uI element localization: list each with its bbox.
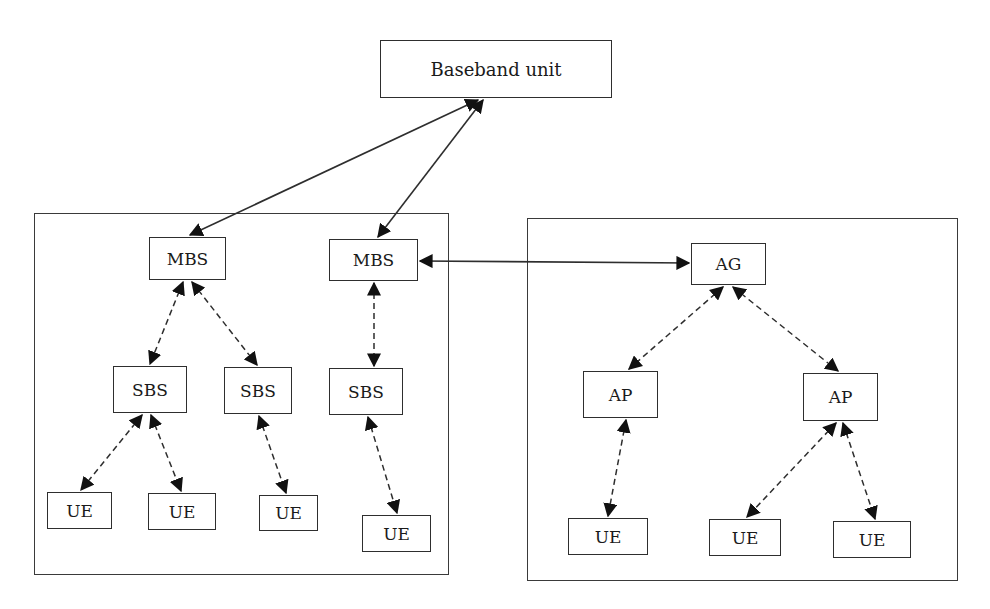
edge-mbs2-ag: [420, 261, 689, 263]
edge-bbu-mbs2: [378, 100, 483, 237]
node-label: UE: [66, 501, 93, 521]
edge-ap1-ue5: [608, 420, 626, 516]
node-label: AG: [716, 254, 742, 274]
node-label: UE: [383, 524, 410, 544]
node-label: MBS: [353, 250, 395, 270]
small-base-station-3: SBS: [329, 368, 403, 415]
small-base-station-1: SBS: [113, 366, 187, 413]
edge-mbs1-sbs2: [192, 282, 257, 365]
node-label: SBS: [132, 380, 168, 400]
node-label: UE: [169, 502, 196, 522]
edge-sbs2-ue3: [259, 416, 286, 493]
edge-sbs1-ue2: [151, 415, 181, 491]
user-equipment-5: UE: [568, 518, 648, 555]
access-point-1: AP: [583, 371, 658, 418]
node-label: MBS: [167, 249, 209, 269]
user-equipment-3: UE: [259, 495, 318, 531]
access-point-2: AP: [803, 373, 878, 421]
node-label: SBS: [240, 381, 276, 401]
macro-base-station-1: MBS: [149, 237, 226, 280]
user-equipment-2: UE: [148, 493, 216, 530]
user-equipment-6: UE: [709, 519, 781, 556]
user-equipment-1: UE: [47, 492, 112, 529]
macro-base-station-2: MBS: [329, 239, 418, 281]
access-gateway-node: AG: [691, 243, 766, 285]
network-diagram: Baseband unit MBS MBS SBS SBS SBS UE UE …: [0, 0, 990, 609]
node-label: UE: [275, 503, 302, 523]
node-label: UE: [859, 530, 886, 550]
node-label: SBS: [348, 382, 384, 402]
edge-sbs3-ue4: [368, 417, 397, 513]
node-label: Baseband unit: [430, 59, 561, 80]
user-equipment-7: UE: [833, 521, 911, 558]
small-base-station-2: SBS: [224, 367, 292, 414]
node-label: AP: [829, 387, 853, 407]
edge-ag-ap2: [733, 287, 838, 371]
edge-bbu-mbs1: [190, 100, 478, 235]
edge-ap2-ue6: [747, 423, 836, 517]
baseband-unit-node: Baseband unit: [380, 40, 612, 98]
edge-ap2-ue7: [843, 423, 875, 519]
edge-mbs1-sbs1: [150, 282, 183, 364]
node-label: AP: [609, 385, 633, 405]
edge-sbs1-ue1: [81, 415, 142, 490]
node-label: UE: [732, 528, 759, 548]
user-equipment-4: UE: [362, 515, 431, 552]
edge-ag-ap1: [629, 287, 723, 369]
node-label: UE: [595, 527, 622, 547]
